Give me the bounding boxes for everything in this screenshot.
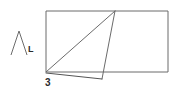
angle-label: L: [28, 45, 34, 54]
side-length-label: 3: [45, 78, 51, 88]
geometry-diagram: [0, 0, 178, 93]
triangle-base: [46, 73, 102, 79]
caret-angle-icon: [11, 31, 27, 55]
figure-container: L 3: [0, 0, 178, 93]
rectangle-outline: [46, 11, 168, 72]
